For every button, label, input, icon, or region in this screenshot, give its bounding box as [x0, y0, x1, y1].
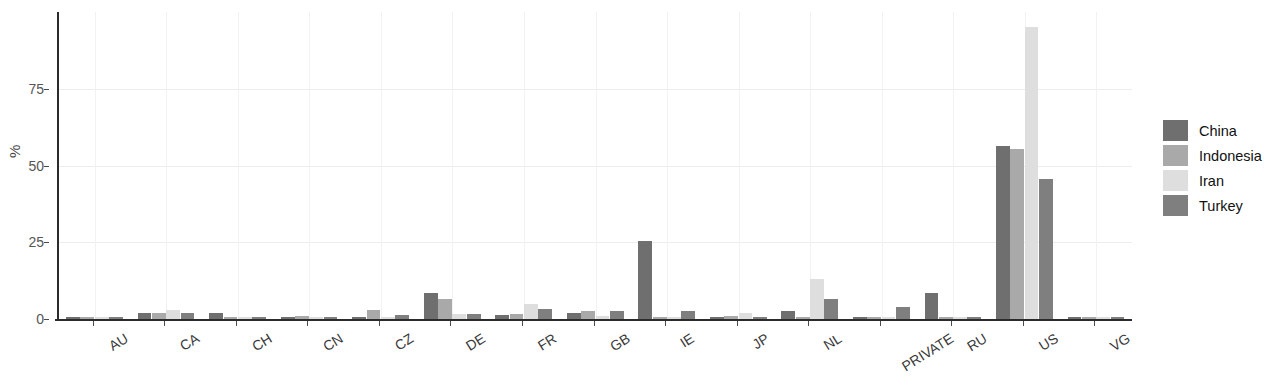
- x-tick-mark-CH: [236, 321, 237, 326]
- gridline-x-PRIVATE: [882, 12, 883, 319]
- y-tick-mark-75: [44, 89, 49, 90]
- x-tick-label-CA: CA: [177, 330, 202, 354]
- gridline-x-CA: [166, 12, 167, 319]
- x-tick-mark-US: [1023, 321, 1024, 326]
- bar-DE-China: [424, 293, 438, 319]
- bar-US-China: [996, 146, 1010, 319]
- bar-FR-Iran: [524, 304, 538, 319]
- x-tick-label-FR: FR: [535, 330, 559, 353]
- x-tick-label-AU: AU: [106, 330, 131, 354]
- x-tick-label-VG: VG: [1107, 330, 1133, 354]
- bar-US-Turkey: [1039, 179, 1053, 319]
- x-tick-label-NL: NL: [821, 330, 845, 353]
- x-tick-mark-NL: [808, 321, 809, 326]
- x-tick-label-CN: CN: [320, 330, 346, 354]
- y-tick-label-0: 0: [36, 311, 44, 327]
- y-tick-label-25: 25: [28, 234, 44, 250]
- bar-FR-Turkey: [538, 309, 552, 319]
- legend-item-turkey[interactable]: Turkey: [1163, 193, 1275, 218]
- plot-area: [57, 12, 1132, 319]
- gridline-x-FR: [524, 12, 525, 319]
- bar-IE-Turkey: [681, 311, 695, 319]
- bar-CZ-Indonesia: [367, 310, 381, 319]
- bar-US-Iran: [1025, 27, 1039, 319]
- gridline-x-JP: [739, 12, 740, 319]
- y-tick-mark-0: [44, 319, 49, 320]
- x-tick-mark-IE: [665, 321, 666, 326]
- gridline-x-RU: [953, 12, 954, 319]
- gridline-x-CN: [309, 12, 310, 319]
- gridline-x-IE: [667, 12, 668, 319]
- x-tick-label-GB: GB: [607, 330, 633, 354]
- x-tick-label-DE: DE: [463, 330, 488, 354]
- bar-GB-Indonesia: [581, 311, 595, 319]
- gridline-x-VG: [1096, 12, 1097, 319]
- x-tick-mark-VG: [1094, 321, 1095, 326]
- gridline-x-AU: [95, 12, 96, 319]
- x-tick-label-JP: JP: [749, 330, 771, 352]
- x-tick-mark-RU: [951, 321, 952, 326]
- legend-item-china[interactable]: China: [1163, 118, 1275, 143]
- x-tick-label-IE: IE: [677, 330, 697, 351]
- legend-item-indonesia[interactable]: Indonesia: [1163, 143, 1275, 168]
- legend: ChinaIndonesiaIranTurkey: [1163, 118, 1275, 218]
- bar-US-Indonesia: [1010, 149, 1024, 319]
- bar-CA-Iran: [166, 310, 180, 319]
- x-tick-label-RU: RU: [964, 330, 990, 354]
- x-tick-mark-CZ: [379, 321, 380, 326]
- bar-GB-Turkey: [610, 311, 624, 319]
- y-tick-label-75: 75: [28, 81, 44, 97]
- x-tick-label-PRIVATE: PRIVATE: [898, 330, 956, 374]
- gridline-x-DE: [452, 12, 453, 319]
- y-tick-label-50: 50: [28, 158, 44, 174]
- y-axis-tick-labels: 0255075: [0, 12, 44, 319]
- x-tick-mark-CN: [307, 321, 308, 326]
- x-tick-mark-AU: [93, 321, 94, 326]
- legend-item-iran[interactable]: Iran: [1163, 168, 1275, 193]
- legend-swatch-icon-china: [1163, 120, 1188, 141]
- bar-chart: % 0255075 AUCACHCNCZDEFRGBIEJPNLPRIVATER…: [0, 0, 1280, 390]
- bar-PRIVATE-Turkey: [896, 307, 910, 319]
- gridline-x-NL: [810, 12, 811, 319]
- bar-RU-China: [925, 293, 939, 319]
- legend-swatch-icon-indonesia: [1163, 145, 1188, 166]
- gridline-x-CZ: [381, 12, 382, 319]
- gridline-x-CH: [238, 12, 239, 319]
- bar-DE-Indonesia: [438, 299, 452, 319]
- x-tick-mark-GB: [594, 321, 595, 326]
- legend-swatch-icon-turkey: [1163, 195, 1188, 216]
- x-tick-mark-CA: [164, 321, 165, 326]
- x-tick-mark-JP: [737, 321, 738, 326]
- y-tick-mark-25: [44, 242, 49, 243]
- legend-swatch-icon-iran: [1163, 170, 1188, 191]
- gridline-x-GB: [596, 12, 597, 319]
- bar-NL-Iran: [810, 279, 824, 319]
- legend-label-turkey: Turkey: [1199, 198, 1243, 214]
- bar-NL-Turkey: [824, 299, 838, 319]
- bar-NL-China: [781, 311, 795, 319]
- x-tick-mark-PRIVATE: [880, 321, 881, 326]
- legend-label-indonesia: Indonesia: [1199, 148, 1262, 164]
- bar-IE-China: [638, 241, 652, 319]
- legend-label-china: China: [1199, 123, 1237, 139]
- x-tick-mark-FR: [522, 321, 523, 326]
- legend-label-iran: Iran: [1199, 173, 1224, 189]
- y-tick-mark-50: [44, 166, 49, 167]
- x-tick-label-US: US: [1036, 330, 1061, 354]
- x-tick-mark-DE: [450, 321, 451, 326]
- x-tick-label-CZ: CZ: [392, 330, 416, 353]
- x-tick-label-CH: CH: [249, 330, 275, 354]
